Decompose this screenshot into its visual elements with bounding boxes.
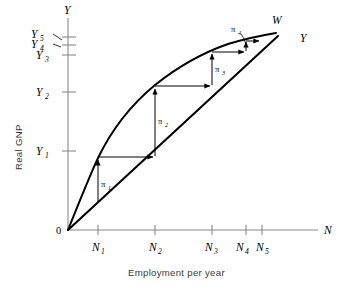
x-axis-title: Employment per year	[128, 267, 225, 278]
n2-sub: 2	[158, 247, 162, 256]
y4-leader	[53, 44, 61, 47]
n4-sub: 4	[245, 247, 249, 256]
increment-label-pi1: π 1	[101, 179, 111, 191]
svg-text:π: π	[231, 24, 236, 34]
svg-text:Employment per year: Employment per year	[128, 267, 225, 278]
w-curve-label: W	[272, 14, 283, 26]
svg-text:π: π	[101, 179, 106, 189]
n3-sub: 3	[213, 247, 218, 256]
svg-text:1: 1	[108, 184, 111, 191]
svg-text:π: π	[215, 64, 220, 74]
svg-text:W: W	[272, 14, 283, 26]
svg-text:3: 3	[221, 69, 225, 76]
n2-label: N	[148, 241, 158, 253]
n4-label: N	[235, 241, 245, 253]
svg-text:2: 2	[165, 121, 168, 128]
forty-five-line-label: Y	[300, 32, 308, 44]
n1-label: N	[91, 241, 101, 253]
x-axis-symbol: N	[323, 224, 333, 236]
x-tick-label-n2: N 2	[148, 241, 162, 256]
y-axis-symbol: Y	[64, 4, 72, 16]
y2-label: Y	[36, 86, 44, 98]
increment-label-pi3: π 3	[215, 64, 225, 76]
n5-sub: 5	[265, 247, 269, 256]
y1-sub: 1	[45, 151, 49, 160]
origin-label: 0	[56, 225, 61, 236]
y-tick-label-y1: Y 1	[36, 145, 49, 160]
y5-sub: 5	[40, 34, 44, 43]
y3-sub: 3	[44, 55, 49, 64]
svg-text:0: 0	[56, 225, 61, 236]
x-tick-label-n1: N 1	[91, 241, 105, 256]
svg-text:N: N	[323, 224, 333, 236]
y2-sub: 2	[45, 92, 49, 101]
increment-label-pi2: π 2	[158, 116, 168, 128]
y5-leader	[53, 34, 62, 40]
svg-text:4: 4	[238, 29, 241, 36]
svg-text:Y: Y	[300, 32, 308, 44]
n5-label: N	[255, 241, 265, 253]
n3-label: N	[204, 241, 214, 253]
forty-five-degree-line	[68, 36, 278, 230]
y-tick-label-y2: Y 2	[36, 86, 49, 101]
y-axis-title: Real GNP	[13, 124, 24, 170]
svg-text:π: π	[158, 116, 163, 126]
increment-label-pi4: π 4	[231, 24, 241, 36]
svg-text:Real GNP: Real GNP	[13, 124, 24, 170]
economics-figure: Y 5 Y 4 Y 3 Y 2 Y 1 Y 0 N 1	[0, 0, 342, 296]
x-tick-label-n4: N 4	[235, 241, 249, 256]
y1-label: Y	[36, 145, 44, 157]
n1-sub: 1	[101, 247, 105, 256]
x-tick-label-n5: N 5	[255, 241, 269, 256]
x-tick-label-n3: N 3	[204, 241, 218, 256]
svg-text:Y: Y	[64, 4, 72, 16]
